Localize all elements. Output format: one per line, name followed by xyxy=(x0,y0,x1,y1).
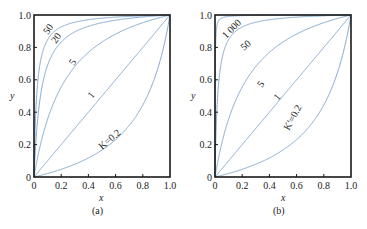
x-tick-label: 0.2 xyxy=(236,180,249,191)
y-tick-label: 1.0 xyxy=(200,10,213,21)
axis-ticks: 00.20.40.60.81.000.20.40.60.81.0 xyxy=(19,10,177,192)
y-tick-label: 0 xyxy=(26,172,31,183)
y-tick-label: 0.8 xyxy=(19,42,32,53)
curve-label-k02: K'=0.2 xyxy=(281,103,303,132)
x-tick-label: 0 xyxy=(213,180,218,191)
y-axis-title: y xyxy=(9,90,15,101)
curve-label-k02: K=0.2 xyxy=(96,127,123,152)
y-tick-label: 0.6 xyxy=(19,74,32,85)
curve-label-1: 1 xyxy=(271,91,283,102)
x-tick-label: 0.2 xyxy=(55,180,68,191)
y-tick-label: 1.0 xyxy=(19,10,32,21)
y-tick-label: 0.4 xyxy=(200,107,213,118)
curves xyxy=(215,15,351,177)
x-tick-label: 0.8 xyxy=(137,180,150,191)
x-tick-label: 0.4 xyxy=(263,180,276,191)
curve-label-1: 1 xyxy=(85,89,97,100)
x-tick-label: 1.0 xyxy=(164,180,177,191)
y-axis-title: y xyxy=(190,90,196,101)
panel-label-b: (b) xyxy=(273,205,285,217)
panel-label-a: (a) xyxy=(92,205,103,217)
y-tick-label: 0.2 xyxy=(200,139,213,150)
x-tick-label: 0.4 xyxy=(82,180,95,191)
curve-label-50: 50 xyxy=(238,38,253,53)
y-tick-label: 0.4 xyxy=(19,107,32,118)
curve-1 xyxy=(215,15,351,177)
curve-label-5: 5 xyxy=(255,79,267,89)
panel-a-chart: 00.20.40.60.81.000.20.40.60.81.0 50 20 5… xyxy=(9,10,176,218)
y-tick-label: 0.6 xyxy=(200,74,213,85)
x-tick-label: 1.0 xyxy=(345,180,358,191)
x-tick-label: 0.6 xyxy=(290,180,303,191)
curve-label-5: 5 xyxy=(66,57,78,67)
y-tick-label: 0.8 xyxy=(200,42,213,53)
x-tick-label: 0.8 xyxy=(318,180,331,191)
x-axis-title: x xyxy=(98,192,104,203)
figure: 00.20.40.60.81.000.20.40.60.81.0 50 20 5… xyxy=(0,0,367,229)
x-axis-title: x xyxy=(280,192,286,203)
x-tick-label: 0 xyxy=(32,180,37,191)
x-tick-label: 0.6 xyxy=(109,180,122,191)
y-tick-label: 0 xyxy=(207,172,212,183)
panel-b-chart: 00.20.40.60.81.000.20.40.60.81.0 1 000 5… xyxy=(190,10,357,218)
y-tick-label: 0.2 xyxy=(19,139,32,150)
